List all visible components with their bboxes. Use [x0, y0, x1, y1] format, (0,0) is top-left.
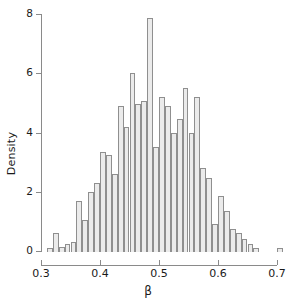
histogram-bar	[124, 127, 130, 252]
x-axis-tick-label: 0.7	[257, 268, 296, 279]
histogram-bar	[153, 147, 159, 252]
y-axis-tick-mark	[36, 133, 41, 134]
histogram-bar	[236, 233, 242, 252]
histogram-bar	[106, 155, 112, 252]
histogram-bar	[53, 233, 59, 252]
histogram-bar	[165, 106, 171, 252]
histogram-bar	[253, 248, 259, 252]
histogram-bar	[65, 244, 71, 252]
y-axis-tick-mark	[36, 251, 41, 252]
histogram-bar	[135, 104, 141, 252]
histogram-bar	[59, 247, 65, 252]
histogram-bar	[100, 152, 106, 252]
x-axis-tick-label: 0.6	[198, 268, 238, 279]
histogram-bar	[194, 97, 200, 252]
histogram-bar	[112, 174, 118, 252]
y-axis-tick-mark	[36, 192, 41, 193]
histogram-bar	[218, 196, 224, 252]
histogram-bar	[76, 201, 82, 252]
x-axis-tick-mark	[218, 260, 219, 265]
histogram-bar	[200, 168, 206, 252]
histogram-bar	[82, 220, 88, 252]
y-axis-label: Density	[0, 0, 22, 307]
histogram-bar	[171, 133, 177, 253]
histogram-bar	[277, 248, 283, 252]
histogram-bar	[177, 119, 183, 252]
histogram-bar	[147, 18, 153, 252]
y-axis-tick-mark	[36, 14, 41, 15]
histogram-bar	[206, 178, 212, 252]
histogram-bar	[242, 239, 248, 252]
x-axis-tick-mark	[159, 260, 160, 265]
x-axis-tick-mark	[100, 260, 101, 265]
histogram-bar	[141, 101, 147, 252]
histogram-bar	[212, 224, 218, 252]
histogram-bar	[183, 88, 189, 252]
histogram-bar	[94, 183, 100, 252]
histogram-bar	[230, 229, 236, 252]
histogram-bar	[224, 211, 230, 252]
y-axis-line	[41, 14, 42, 252]
x-axis-tick-label: 0.4	[80, 268, 120, 279]
histogram-bar	[88, 192, 94, 252]
histogram-figure: 02468 Density 0.30.40.50.60.7 β	[0, 0, 296, 307]
x-axis-tick-label: 0.5	[139, 268, 179, 279]
histogram-bar	[189, 133, 195, 253]
x-axis-tick-mark	[277, 260, 278, 265]
histogram-bar	[71, 242, 77, 252]
histogram-bar	[159, 97, 165, 252]
histogram-bar	[47, 248, 53, 252]
histogram-bar	[130, 73, 136, 252]
x-axis-line	[41, 265, 277, 266]
y-axis-tick-mark	[36, 73, 41, 74]
x-axis-tick-label: 0.3	[21, 268, 61, 279]
x-axis-label: β	[0, 284, 296, 298]
x-axis-tick-mark	[41, 260, 42, 265]
histogram-bar	[118, 106, 124, 252]
histogram-bar	[248, 244, 254, 252]
plot-area	[0, 0, 296, 307]
